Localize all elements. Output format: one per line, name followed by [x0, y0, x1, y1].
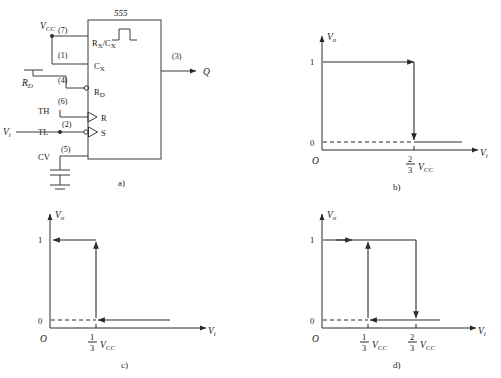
pin-label-r: R — [101, 113, 107, 123]
ic-label-555: 555 — [114, 8, 128, 18]
x-axis-label: Vi — [480, 148, 488, 160]
supply-label-vcc: VCC — [40, 21, 55, 33]
y-axis-label: Vo — [55, 210, 65, 222]
y-axis-label: Vo — [327, 32, 337, 44]
fraction-denominator: 3 — [90, 343, 94, 353]
fraction-numerator: 1 — [362, 332, 366, 342]
pin-number-2: (2) — [62, 120, 72, 129]
y-axis-label: Vo — [327, 210, 337, 222]
pin-number-5: (5) — [61, 145, 71, 154]
comparator-triangle-s — [89, 127, 98, 137]
control-voltage-label-cv: CV — [38, 152, 51, 162]
origin-label: O — [312, 156, 319, 166]
wire-th-to-pin6 — [60, 110, 88, 117]
reset-resistor-label-rd: RD — [21, 78, 33, 90]
pulse-waveform-icon — [112, 29, 137, 40]
pin-number-4: (4) — [58, 76, 68, 85]
y-tick-1: 1 — [38, 235, 42, 245]
y-tick-0: 0 — [310, 138, 314, 148]
fraction-denominator: 3 — [362, 343, 366, 353]
pin-number-6: (6) — [58, 97, 68, 106]
tick-unit: VCC — [418, 162, 433, 174]
tick-unit: VCC — [372, 340, 387, 352]
pin-number-7: (7) — [58, 26, 68, 35]
pin-number-3: (3) — [172, 52, 182, 61]
panel-b-transfer-curve: Vo Vi O 0 1 2 3 VCC b) — [290, 22, 501, 194]
panel-caption-a: a) — [118, 178, 125, 188]
x-axis-label: Vi — [478, 326, 486, 338]
fraction-numerator: 2 — [410, 332, 414, 342]
pin-label-cx: CX — [94, 61, 105, 73]
panel-caption-b: b) — [393, 182, 401, 192]
pin-label-s: S — [101, 128, 106, 138]
y-tick-1: 1 — [310, 235, 314, 245]
fraction-numerator: 2 — [408, 154, 412, 164]
panel-a-circuit: 555 VCC (7) RX/CX (1) CX RD (4) RD TH — [0, 4, 258, 194]
input-label-vi: Vi — [3, 127, 11, 139]
x-tick-label-two-thirds: 2 3 VCC — [406, 154, 433, 175]
fraction-denominator: 3 — [410, 343, 414, 353]
y-tick-1: 1 — [310, 57, 314, 67]
x-axis-label: Vi — [208, 326, 216, 338]
comparator-triangle-r — [88, 112, 97, 122]
tick-unit: VCC — [100, 340, 115, 352]
panel-caption-c: c) — [121, 360, 128, 370]
output-label-q: Q — [203, 67, 210, 77]
y-tick-0: 0 — [38, 316, 42, 326]
pin-label-rd-inner: RD — [94, 87, 105, 99]
y-tick-0: 0 — [310, 316, 314, 326]
origin-label: O — [40, 334, 47, 344]
threshold-label-th: TH — [38, 106, 49, 116]
pin-number-1: (1) — [58, 51, 68, 60]
origin-label: O — [312, 334, 319, 344]
x-tick-label-one-third: 1 3 VCC — [88, 332, 115, 353]
tick-unit: VCC — [420, 340, 435, 352]
fraction-numerator: 1 — [90, 332, 94, 342]
panel-d-transfer-curve: Vo Vi O 0 1 1 3 VCC 2 3 — [280, 200, 501, 372]
panel-caption-d: d) — [393, 360, 401, 370]
fraction-denominator: 3 — [408, 165, 412, 175]
panel-c-transfer-curve: Vo Vi O 0 1 1 3 VCC c) — [18, 200, 229, 372]
x-tick-label-one-third: 1 3 VCC — [360, 332, 387, 353]
x-tick-label-two-thirds: 2 3 VCC — [408, 332, 435, 353]
